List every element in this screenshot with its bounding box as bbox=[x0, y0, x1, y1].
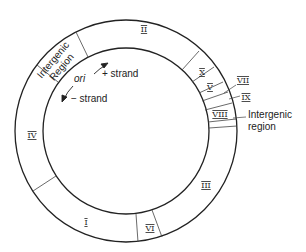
plus-strand-label: + strand bbox=[102, 68, 138, 79]
intergenic-region-label-right-line2: region bbox=[248, 121, 276, 132]
segment-label-III: III bbox=[201, 181, 210, 190]
segment-label-IV: IV bbox=[28, 131, 37, 140]
ori-label: ori bbox=[74, 73, 86, 84]
intergenic-region-label-top: Intergenic Region bbox=[35, 39, 80, 87]
outer-ring bbox=[15, 20, 237, 242]
segment-label-VII: VII bbox=[236, 76, 249, 85]
segment-label-II: II bbox=[141, 25, 147, 34]
segment-label-VI: VI bbox=[145, 224, 155, 233]
segment-label-IX: IX bbox=[242, 93, 251, 102]
segment-label-VIII: VIII bbox=[211, 110, 227, 119]
genome-map: II X V VII IX VIII III VI I IV Intergeni… bbox=[0, 0, 306, 252]
segment-label-V: V bbox=[206, 83, 213, 92]
intergenic-region-label-right-line1: Intergenic bbox=[248, 109, 292, 120]
segment-label-X: X bbox=[199, 68, 205, 77]
segment-label-I: I bbox=[84, 218, 87, 227]
minus-strand-label: − strand bbox=[71, 93, 107, 104]
